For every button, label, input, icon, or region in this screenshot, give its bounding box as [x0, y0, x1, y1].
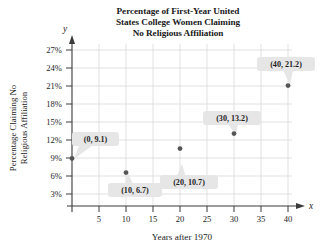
callout-2: (20, 10.7) — [160, 175, 218, 189]
chart-title-line-3: No Religious Affiliation — [133, 28, 224, 38]
callout-3: (30, 13.2) — [203, 111, 261, 125]
chart-canvas: Percentage of First-Year United States C… — [0, 0, 322, 245]
scatter-chart: Percentage of First-Year United States C… — [0, 0, 322, 245]
callout-leaders — [74, 70, 293, 186]
y-tick-label-3: 3% — [51, 189, 62, 199]
data-point-0 — [70, 156, 75, 161]
y-axis-caption-line-1: Percentage Claiming No — [8, 84, 18, 171]
data-point-4 — [286, 83, 291, 88]
y-tick-label-9: 9% — [51, 153, 62, 163]
data-point-3 — [232, 131, 237, 136]
callout-1: (10, 6.7) — [108, 183, 162, 197]
x-tick-label-35: 35 — [257, 214, 266, 224]
x-tick-label-10: 10 — [122, 214, 131, 224]
x-tick-label-15: 15 — [149, 214, 158, 224]
y-axis-variable-label: y — [62, 24, 68, 34]
y-tick-label-21: 21% — [46, 81, 62, 91]
x-axis-caption: Years after 1970 — [152, 232, 213, 242]
y-tick-label-27: 27% — [46, 45, 62, 55]
x-tick-label-20: 20 — [176, 214, 185, 224]
x-tick-label-5: 5 — [97, 214, 101, 224]
callout-label-4: (40, 21.2) — [270, 60, 302, 69]
x-axis: x 5 10 15 20 25 30 35 40 — [67, 201, 314, 224]
y-tick-label-6: 6% — [51, 171, 62, 181]
callout-label-3: (30, 13.2) — [216, 114, 248, 123]
y-tick-label-18: 18% — [46, 99, 62, 109]
y-tick-label-15: 15% — [46, 117, 62, 127]
y-axis-caption: Percentage Claiming No Religious Affilia… — [8, 84, 29, 171]
y-axis-caption-line-2: Religious Affiliation — [19, 91, 29, 164]
y-axis-arrow-icon — [69, 35, 75, 44]
chart-title: Percentage of First-Year United States C… — [116, 6, 241, 38]
chart-title-line-2: States College Women Claiming — [116, 17, 241, 27]
data-point-2 — [178, 146, 183, 151]
x-axis-variable-label: x — [308, 201, 314, 211]
x-tick-label-30: 30 — [230, 214, 239, 224]
callout-label-0: (0, 9.1) — [84, 135, 108, 144]
y-axis: y 27% 24% 21% 18% 15% 12% 9% 6% 3% — [46, 24, 75, 212]
x-axis-arrow-icon — [296, 203, 305, 209]
y-tick-label-24: 24% — [46, 63, 62, 73]
callout-label-2: (20, 10.7) — [173, 178, 205, 187]
callout-4: (40, 21.2) — [257, 57, 315, 71]
data-point-1 — [124, 170, 129, 175]
callout-0: (0, 9.1) — [72, 132, 119, 146]
x-tick-label-25: 25 — [203, 214, 212, 224]
chart-title-line-1: Percentage of First-Year United — [117, 6, 240, 16]
callout-label-1: (10, 6.7) — [121, 186, 149, 195]
y-tick-label-12: 12% — [46, 135, 62, 145]
x-tick-label-40: 40 — [284, 214, 293, 224]
